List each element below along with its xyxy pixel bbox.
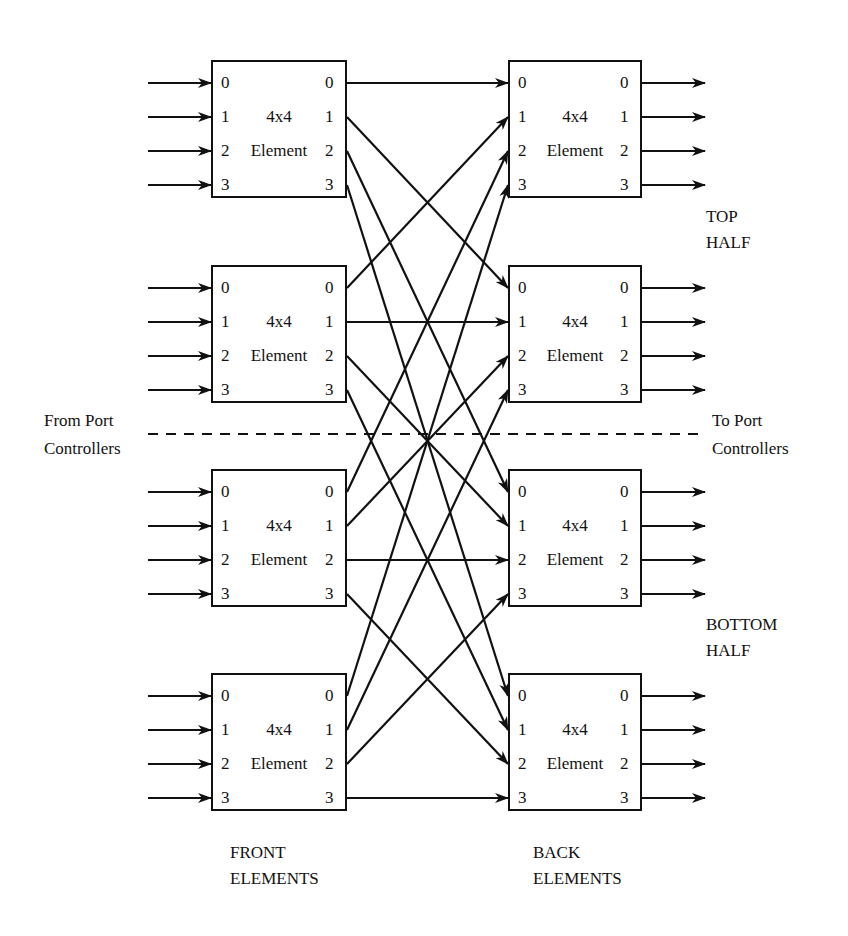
output-port-label: 3: [620, 584, 629, 604]
top-half-line2: HALF: [706, 232, 750, 254]
input-port-label: 0: [518, 686, 527, 706]
input-port-label: 0: [221, 482, 230, 502]
to-port-controllers-label: To Port Controllers: [712, 410, 789, 460]
to-label-line1: To Port: [712, 410, 789, 432]
element-size-label: 4x4: [211, 107, 347, 127]
element-size-label: 4x4: [211, 516, 347, 536]
from-label-line2: Controllers: [44, 438, 121, 460]
element-size-label: 4x4: [211, 720, 347, 740]
output-port-label: 0: [620, 278, 629, 298]
input-port-label: 0: [221, 73, 230, 93]
output-port-label: 0: [620, 73, 629, 93]
output-port-label: 3: [620, 380, 629, 400]
output-port-label: 0: [325, 482, 334, 502]
element-size-label: 4x4: [508, 720, 642, 740]
element-size-label: 4x4: [508, 516, 642, 536]
input-port-label: 3: [221, 584, 230, 604]
input-port-label: 3: [518, 175, 527, 195]
element-size-label: 4x4: [508, 107, 642, 127]
output-port-label: 0: [325, 73, 334, 93]
wiring-layer: [0, 0, 848, 936]
input-port-label: 0: [221, 686, 230, 706]
front-elements-line2: ELEMENTS: [230, 868, 319, 890]
to-label-line2: Controllers: [712, 438, 789, 460]
back-elements-label: BACK ELEMENTS: [533, 842, 622, 890]
output-port-label: 3: [620, 175, 629, 195]
input-port-label: 3: [221, 788, 230, 808]
bottom-half-line2: HALF: [706, 640, 777, 662]
bottom-half-line1: BOTTOM: [706, 614, 777, 636]
output-port-label: 3: [325, 584, 334, 604]
element-name-label: Element: [508, 550, 642, 570]
input-port-label: 0: [221, 278, 230, 298]
input-port-label: 0: [518, 73, 527, 93]
front-elements-label: FRONT ELEMENTS: [230, 842, 319, 890]
front-elements-line1: FRONT: [230, 842, 319, 864]
element-name-label: Element: [508, 346, 642, 366]
output-port-label: 3: [325, 380, 334, 400]
output-port-label: 3: [620, 788, 629, 808]
output-port-label: 3: [325, 788, 334, 808]
bottom-half-label: BOTTOM HALF: [706, 614, 777, 662]
output-port-label: 0: [620, 686, 629, 706]
element-name-label: Element: [211, 346, 347, 366]
element-size-label: 4x4: [508, 312, 642, 332]
top-half-line1: TOP: [706, 206, 750, 228]
output-port-label: 0: [325, 686, 334, 706]
element-name-label: Element: [508, 754, 642, 774]
element-size-label: 4x4: [211, 312, 347, 332]
input-port-label: 3: [221, 380, 230, 400]
back-elements-line1: BACK: [533, 842, 622, 864]
back-elements-line2: ELEMENTS: [533, 868, 622, 890]
element-name-label: Element: [211, 141, 347, 161]
input-port-label: 3: [518, 788, 527, 808]
element-name-label: Element: [211, 754, 347, 774]
element-name-label: Element: [211, 550, 347, 570]
top-half-label: TOP HALF: [706, 206, 750, 254]
output-port-label: 0: [620, 482, 629, 502]
input-port-label: 3: [518, 584, 527, 604]
input-port-label: 3: [221, 175, 230, 195]
element-name-label: Element: [508, 141, 642, 161]
input-port-label: 0: [518, 278, 527, 298]
from-label-line1: From Port: [44, 410, 121, 432]
output-port-label: 3: [325, 175, 334, 195]
output-port-label: 0: [325, 278, 334, 298]
from-port-controllers-label: From Port Controllers: [44, 410, 121, 460]
input-port-label: 3: [518, 380, 527, 400]
input-port-label: 0: [518, 482, 527, 502]
